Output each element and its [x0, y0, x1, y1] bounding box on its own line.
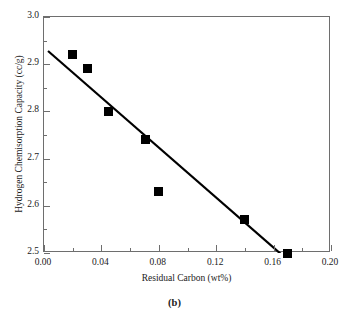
x-axis-title: Residual Carbon (wt%)	[43, 272, 330, 284]
x-tick-major	[159, 245, 160, 251]
y-tick-minor	[44, 229, 47, 230]
x-tick-major	[44, 245, 45, 251]
y-tick-major	[44, 253, 50, 254]
x-tick-label: 0.00	[23, 258, 63, 268]
x-tick-minor	[302, 248, 303, 251]
data-point-marker	[83, 64, 92, 73]
data-point-marker	[240, 215, 249, 224]
y-tick-minor	[44, 135, 47, 136]
y-tick-minor	[44, 41, 47, 42]
y-tick-minor	[44, 182, 47, 183]
data-point-marker	[104, 107, 113, 116]
y-tick-label: 2.7	[5, 153, 39, 163]
x-tick-minor	[245, 248, 246, 251]
plot-area	[43, 16, 330, 252]
y-tick-label: 2.8	[5, 105, 39, 115]
trendline	[44, 17, 331, 253]
y-tick-minor	[44, 88, 47, 89]
y-tick-major	[44, 206, 50, 207]
y-tick-major	[44, 17, 50, 18]
x-tick-label: 0.08	[138, 258, 178, 268]
data-point-marker	[283, 249, 292, 258]
x-tick-label: 0.12	[195, 258, 235, 268]
x-tick-minor	[188, 248, 189, 251]
y-tick-major	[44, 64, 50, 65]
y-tick-label: 2.5	[5, 247, 39, 257]
x-tick-major	[331, 245, 332, 251]
x-tick-major	[274, 245, 275, 251]
figure-panel-b: Hydrogen Chemisorption Capacity (cc/g) R…	[0, 0, 349, 321]
y-tick-label: 2.9	[5, 58, 39, 68]
y-tick-major	[44, 159, 50, 160]
y-axis-title: Hydrogen Chemisorption Capacity (cc/g)	[12, 16, 26, 252]
y-tick-label: 3.0	[5, 11, 39, 21]
data-point-marker	[154, 187, 163, 196]
x-tick-label: 0.04	[80, 258, 120, 268]
x-tick-label: 0.20	[310, 258, 349, 268]
x-tick-minor	[130, 248, 131, 251]
x-tick-label: 0.16	[253, 258, 293, 268]
x-tick-major	[101, 245, 102, 251]
x-tick-minor	[73, 248, 74, 251]
figure-caption: (b)	[0, 297, 349, 308]
y-tick-label: 2.6	[5, 200, 39, 210]
y-tick-major	[44, 111, 50, 112]
data-point-marker	[141, 135, 150, 144]
x-tick-major	[216, 245, 217, 251]
data-point-marker	[68, 50, 77, 59]
